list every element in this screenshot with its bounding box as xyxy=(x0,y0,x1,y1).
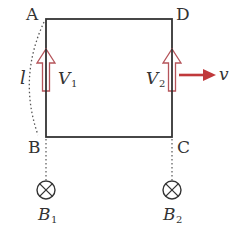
voltmeter-v2-subscript: 2 xyxy=(159,78,165,89)
length-label: l xyxy=(20,67,26,88)
voltmeter-v1-subscript: 1 xyxy=(71,78,77,89)
length-arc xyxy=(29,22,44,135)
voltmeter-v2-label: V xyxy=(146,68,160,88)
vertex-c-label: C xyxy=(177,137,190,157)
field-b2-label: B xyxy=(162,204,176,224)
field-b1-into-page-icon xyxy=(37,181,55,199)
velocity-arrow-icon xyxy=(179,69,216,81)
vertex-d-label: D xyxy=(176,4,190,24)
voltmeter-v1-label: V xyxy=(58,68,72,88)
voltmeter-v1-arrow-icon xyxy=(37,49,55,92)
field-b2-into-page-icon xyxy=(163,181,181,199)
vertex-a-label: A xyxy=(25,4,39,24)
voltmeter-v2-arrow-icon xyxy=(163,49,181,92)
vertex-b-label: B xyxy=(28,137,41,157)
circuit-diagram: A D B C l V 1 V 2 v B 1 B 2 xyxy=(0,0,244,235)
velocity-label: v xyxy=(219,64,229,84)
field-b1-subscript: 1 xyxy=(51,214,57,225)
field-b1-label: B xyxy=(37,204,51,224)
field-b2-subscript: 2 xyxy=(176,214,182,225)
